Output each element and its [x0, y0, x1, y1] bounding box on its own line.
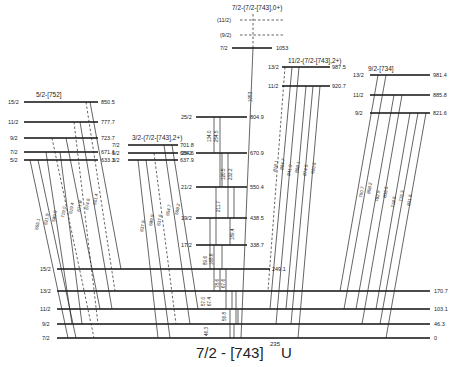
gamma-label: 841.0: [286, 164, 293, 177]
spin-label: 7/2: [42, 335, 50, 341]
energy-label: 637.9: [180, 157, 194, 163]
gamma-label: 211.7: [216, 200, 221, 212]
gamma-line: [362, 95, 402, 324]
spin-label: (11/2): [217, 17, 231, 23]
gamma-label: 821.6: [406, 194, 413, 207]
energy-label: 920.7: [332, 83, 346, 89]
ground-band: 15/2 13/2 11/2 9/2 7/2 249.1 170.7 103.1…: [40, 266, 448, 341]
gamma-labels: 655.1 621.9 589.9 719.0 619.4 671.8 674.…: [34, 193, 99, 231]
gamma-label: 619.4: [68, 202, 75, 215]
gamma-label: 598.2: [174, 203, 181, 216]
energy-label: 338.7: [250, 242, 264, 248]
spin-label: 11/2: [268, 83, 278, 89]
energy-label: 170.7: [434, 288, 448, 294]
energy-label: 1053: [276, 45, 288, 51]
spin-label: 13/2: [40, 288, 51, 294]
gamma-label: 637.6: [156, 214, 163, 227]
gamma-line: [90, 102, 121, 269]
gamma-label: 67.6: [221, 279, 226, 288]
gamma-label: 874.5: [302, 164, 309, 177]
spin-label: 13/2: [268, 64, 279, 70]
gamma-label: 689.9: [148, 214, 155, 227]
energy-label: 701.8: [180, 142, 194, 148]
gamma-label: 232.2: [228, 168, 233, 180]
spin-label: (9/2): [220, 32, 231, 38]
gamma-line: [268, 67, 285, 291]
gamma-label: 168.6: [209, 253, 214, 265]
gamma-label: 1053: [248, 91, 253, 102]
energy-label: 850.5: [101, 99, 115, 105]
gamma-label: 858.2: [366, 182, 373, 195]
gamma-label: 120.5: [221, 168, 226, 180]
spin-label: 7/2: [10, 149, 18, 155]
gamma-line: [276, 67, 299, 324]
gamma-line: [386, 113, 426, 338]
gamma-line: [138, 160, 158, 338]
spin-label: 25/2: [181, 114, 192, 120]
gamma-label: 818.1: [272, 160, 279, 173]
gamma-label: 671.8: [76, 200, 83, 213]
gamma-line: [60, 152, 82, 324]
gamma-label: 189.4: [230, 228, 235, 240]
gamma-label: 637.9: [139, 220, 146, 233]
spin-label: 9/2: [355, 110, 363, 116]
gamma-line: [46, 152, 72, 324]
band-743-gamma: 3/2-(7/2-[743],2+) 7/2 5/2 3/2 701.8 684…: [112, 134, 198, 338]
gamma-label: 46.3: [204, 327, 209, 336]
gamma-label: 78.6: [215, 279, 220, 288]
spin-label: 5/2: [112, 150, 120, 156]
gamma-label: 655.1: [34, 218, 41, 231]
nucleus-mass-number: 235: [270, 341, 281, 347]
gamma-label: 674.6: [84, 198, 91, 211]
spin-label: 23/2: [181, 150, 192, 156]
gamma-label: 868.1: [294, 161, 301, 174]
gamma-label: 920.6: [310, 162, 317, 175]
gamma-label: 835.5: [382, 186, 389, 199]
gamma-line: [380, 113, 418, 324]
energy-label: 550.4: [250, 184, 264, 190]
spin-label: 9/2: [10, 135, 18, 141]
gamma-label: 621.9: [43, 213, 50, 226]
band-752: 5/2-[752] 15/2 11/2 9/2 7/2 5/2 850.5 77…: [8, 91, 121, 338]
gamma-label: 57.0: [201, 297, 206, 306]
energy-label: 0: [434, 335, 437, 341]
band-label: 9/2-[734]: [368, 65, 394, 73]
gamma-labels: 818.1 864.7 841.0 868.1 874.5 920.6: [272, 158, 317, 177]
spin-label: 11/2: [8, 119, 18, 125]
spin-label: 11/2: [353, 92, 363, 98]
energy-label: 804.9: [250, 114, 264, 120]
gamma-label: 134.0: [207, 130, 212, 142]
spin-label: 7/2: [220, 45, 228, 51]
level-scheme-diagram: 15/2 13/2 11/2 9/2 7/2 249.1 170.7 103.1…: [0, 0, 452, 367]
gamma-label: 718.6: [390, 196, 397, 209]
band-label: 3/2-(7/2-[743],2+): [132, 134, 182, 142]
energy-label: 821.6: [433, 110, 447, 116]
gamma-label: 67.4: [207, 297, 212, 306]
spin-label: 9/2: [42, 321, 50, 327]
energy-label: 981.4: [433, 72, 447, 78]
gamma-label: 254.5: [214, 130, 219, 142]
spin-label: 17/2: [181, 242, 192, 248]
spin-label: 15/2: [40, 266, 51, 272]
band-734: 9/2-[734] 13/2 11/2 9/2 981.4 885.8 821.…: [340, 65, 447, 338]
spin-label: 11/2: [40, 306, 50, 312]
energy-label: 670.9: [250, 150, 264, 156]
spin-label: 21/2: [181, 184, 192, 190]
band-743-gamma-high: 11/2-(7/2-[743],2+) 13/2 11/2 987.5 920.…: [268, 57, 346, 338]
spin-label: 15/2: [8, 99, 19, 105]
gamma-label: 654.7: [165, 204, 172, 217]
energy-label: 885.8: [433, 92, 447, 98]
energy-label: 103.1: [434, 306, 448, 312]
band-label: 7/2-(7/2-[743],0+): [232, 4, 282, 12]
energy-label: 723.7: [101, 135, 115, 141]
gamma-line: [376, 113, 410, 309]
gamma-labels: 134.0 254.5 120.5 232.2 211.7 189.4 89.6…: [201, 130, 235, 336]
energy-label: 438.5: [250, 215, 264, 221]
spin-label: 13/2: [353, 72, 364, 78]
gamma-label: 719.0: [60, 206, 67, 219]
energy-label: 46.3: [434, 321, 445, 327]
spin-label: 19/2: [181, 215, 192, 221]
gamma-label: 601.4: [92, 193, 99, 206]
gamma-label: 56.8: [222, 312, 227, 321]
nucleus-symbol: U: [281, 344, 292, 361]
